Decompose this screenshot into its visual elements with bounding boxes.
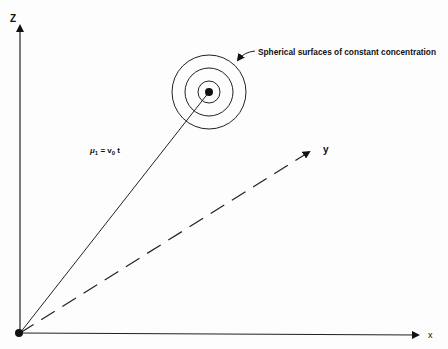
z-axis-label: Z bbox=[10, 13, 16, 24]
x-axis bbox=[20, 333, 418, 335]
annotation-text: Spherical surfaces of constant concentra… bbox=[258, 47, 436, 57]
position-vector bbox=[20, 92, 209, 333]
vector-label: μ1 = v0 t bbox=[89, 146, 120, 156]
y-axis-label: y bbox=[323, 144, 329, 155]
diagram-svg: Z x y Spherical surfaces of constant con… bbox=[0, 0, 448, 349]
y-axis bbox=[20, 152, 309, 333]
origin-point bbox=[15, 329, 23, 337]
equals-v: = v bbox=[98, 146, 112, 155]
source-point bbox=[205, 88, 213, 96]
diffusion-diagram: Z x y Spherical surfaces of constant con… bbox=[0, 0, 448, 349]
annotation-leader-arrow bbox=[238, 51, 255, 60]
x-axis-label: x bbox=[428, 330, 433, 340]
t-symbol: t bbox=[115, 146, 120, 155]
